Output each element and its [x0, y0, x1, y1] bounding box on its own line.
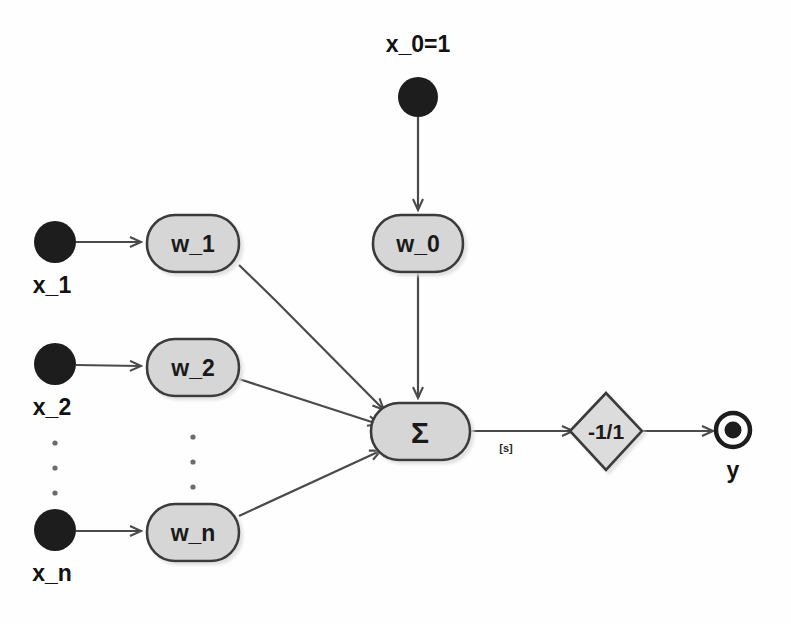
- input-node-x1[interactable]: [34, 221, 76, 263]
- activation-node-label: -1/1: [588, 420, 625, 443]
- edge-w1-to-sum: [239, 265, 383, 409]
- input-node-x2[interactable]: [34, 343, 76, 385]
- edge-w2-to-sum: [239, 379, 378, 424]
- diagram-canvas: x_0=1 w_0 x_1 x_2 x_n w_1 w_2 w: [0, 0, 791, 624]
- input-node-x1-label: x_1: [33, 272, 72, 298]
- bias-input-label: x_0=1: [386, 31, 451, 57]
- input-node-x2-label: x_2: [33, 394, 71, 420]
- summation-node-label: Σ: [411, 416, 429, 449]
- weight-column-ellipsis: [190, 434, 195, 489]
- edge-wn-to-sum: [239, 451, 380, 516]
- weight-node-w1-label: w_1: [170, 231, 215, 257]
- output-node[interactable]: [716, 413, 750, 447]
- output-node-label: y: [727, 457, 740, 483]
- edge-x2-to-w2: [76, 365, 140, 366]
- input-node-xn[interactable]: [34, 509, 76, 551]
- perceptron-diagram: x_0=1 w_0 x_1 x_2 x_n w_1 w_2 w: [0, 0, 791, 624]
- weight-node-w0-label: w_0: [395, 231, 439, 257]
- edges-group: [76, 117, 712, 531]
- bias-input-node[interactable]: [398, 77, 438, 117]
- input-node-xn-label: x_n: [32, 560, 72, 586]
- input-column-ellipsis: [52, 440, 57, 495]
- weight-node-w2-label: w_2: [170, 355, 214, 381]
- activation-edge-label: [s]: [499, 442, 513, 454]
- weight-node-wn-label: w_n: [170, 520, 216, 546]
